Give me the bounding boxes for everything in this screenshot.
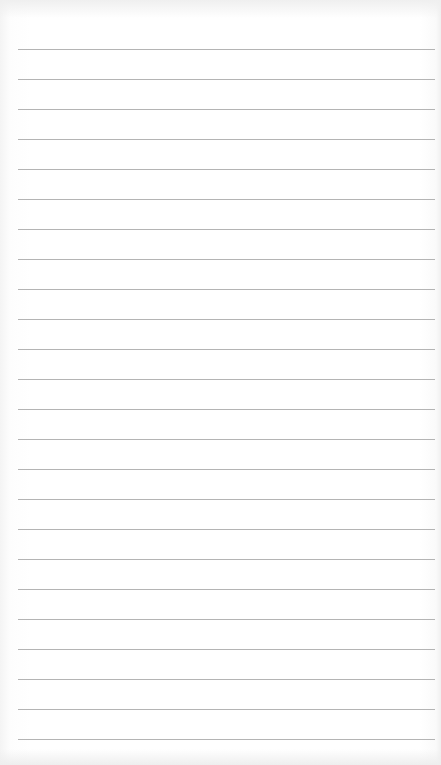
ruled-line bbox=[18, 469, 435, 470]
ruled-line bbox=[18, 529, 435, 530]
ruled-line bbox=[18, 379, 435, 380]
ruled-line bbox=[18, 319, 435, 320]
ruled-line bbox=[18, 709, 435, 710]
ruled-line bbox=[18, 409, 435, 410]
ruled-line bbox=[18, 49, 435, 50]
ruled-line bbox=[18, 349, 435, 350]
ruled-line bbox=[18, 439, 435, 440]
ruled-line bbox=[18, 259, 435, 260]
lined-paper bbox=[0, 0, 441, 765]
ruled-line bbox=[18, 499, 435, 500]
ruled-line bbox=[18, 679, 435, 680]
ruled-line bbox=[18, 739, 435, 740]
ruled-line bbox=[18, 289, 435, 290]
ruled-line bbox=[18, 649, 435, 650]
ruled-line bbox=[18, 589, 435, 590]
ruled-line bbox=[18, 559, 435, 560]
ruled-line bbox=[18, 229, 435, 230]
ruled-line bbox=[18, 619, 435, 620]
ruled-line bbox=[18, 109, 435, 110]
ruled-line bbox=[18, 199, 435, 200]
ruled-line bbox=[18, 139, 435, 140]
ruled-line bbox=[18, 169, 435, 170]
ruled-line bbox=[18, 79, 435, 80]
